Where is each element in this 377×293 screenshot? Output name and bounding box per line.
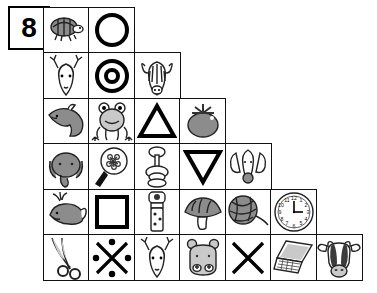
grid-cell-clock[interactable]: 1212 345 678 91011 (270, 189, 317, 236)
svg-text:12: 12 (291, 195, 297, 201)
svg-text:7: 7 (285, 220, 288, 226)
grid-cell-circle[interactable] (88, 7, 135, 54)
clock-icon: 1212 345 678 91011 (273, 191, 315, 233)
grid-cell-deer[interactable] (43, 52, 90, 99)
grid-cell-square[interactable] (88, 189, 135, 236)
dog-head-icon (227, 145, 269, 189)
grid-cell-x-cross[interactable] (225, 234, 272, 281)
zebra-head-icon (136, 54, 178, 98)
grid-cell-zebra[interactable] (134, 52, 181, 99)
grid-cell-ring-circle[interactable] (88, 52, 135, 99)
grid-row (44, 99, 363, 145)
tomato-icon (182, 101, 224, 141)
laptop-icon (272, 238, 316, 278)
svg-text:10: 10 (278, 202, 284, 208)
x-dots-icon (91, 237, 133, 279)
grid-cell-dolphin[interactable] (43, 98, 90, 145)
circle-icon (92, 10, 132, 50)
grid-row (44, 145, 363, 191)
grid-cell-tomato[interactable] (179, 98, 226, 145)
spinning-top-icon (138, 145, 176, 189)
svg-text:5: 5 (299, 220, 302, 226)
deer-head-icon (136, 236, 178, 280)
grid-cell-x-dots[interactable] (88, 234, 135, 281)
deer-head-icon (45, 54, 87, 98)
mushroom-icon (182, 192, 224, 232)
dolphin-icon (44, 100, 88, 142)
scissors-icon (46, 236, 86, 280)
grid-row (44, 236, 363, 282)
grid-row: 1212 345 678 91011 (44, 190, 363, 236)
ring-circle-icon (92, 56, 132, 96)
cow-head-icon (317, 237, 361, 279)
grid-cell-scissors[interactable] (43, 234, 90, 281)
grid-cell-flashlight[interactable] (134, 189, 181, 236)
hippo-head-icon (182, 237, 224, 279)
elephant-head-icon (44, 145, 88, 189)
yarn-ball-icon (226, 192, 270, 232)
flashlight-icon (141, 190, 173, 234)
grid-cell-frog[interactable] (88, 98, 135, 145)
grid-cell-dog[interactable] (225, 143, 272, 190)
grid-cell-spinning-top[interactable] (134, 143, 181, 190)
svg-text:11: 11 (284, 197, 289, 203)
magnifier-flower-icon (90, 145, 134, 189)
triangle-down-icon (183, 148, 223, 186)
turtle-icon (45, 9, 87, 51)
svg-text:8: 8 (280, 216, 283, 222)
grid-cell-elephant[interactable] (43, 143, 90, 190)
whale-icon (44, 191, 88, 233)
grid-row (44, 8, 363, 54)
grid-cell-hippo[interactable] (179, 234, 226, 281)
grid-cell-laptop[interactable] (270, 234, 317, 281)
svg-text:2: 2 (304, 202, 307, 208)
square-icon (93, 193, 131, 231)
grid-row (44, 54, 363, 100)
svg-text:6: 6 (292, 223, 295, 229)
grid-cell-cow[interactable] (316, 234, 363, 281)
grid-cell-triangle-up[interactable] (134, 98, 181, 145)
picture-grid: 1212 345 678 91011 (44, 8, 363, 281)
grid-cell-triangle-down[interactable] (179, 143, 226, 190)
frog-icon (91, 99, 133, 143)
svg-text:4: 4 (304, 216, 307, 222)
grid-cell-turtle[interactable] (43, 7, 90, 54)
grid-cell-deer-2[interactable] (134, 234, 181, 281)
svg-text:1: 1 (299, 197, 302, 203)
grid-cell-yarn[interactable] (225, 189, 272, 236)
grid-cell-magnifier[interactable] (88, 143, 135, 190)
triangle-up-icon (137, 102, 177, 140)
svg-text:9: 9 (278, 209, 281, 215)
grid-cell-whale[interactable] (43, 189, 90, 236)
worksheet-page: 8 (0, 0, 377, 293)
grid-cell-mushroom[interactable] (179, 189, 226, 236)
svg-text:3: 3 (306, 209, 309, 215)
x-cross-icon (228, 238, 268, 278)
